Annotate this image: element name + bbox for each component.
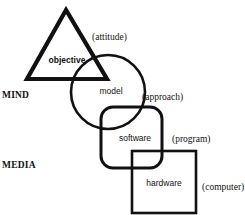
approach-annotation: (approach)	[142, 92, 183, 103]
model-label: model	[99, 86, 122, 96]
computer-annotation: (computer)	[202, 182, 244, 193]
software-label: software	[119, 133, 151, 143]
objective-triangle	[27, 10, 107, 79]
mind-label: MIND	[2, 90, 29, 100]
hardware-label: hardware	[146, 178, 182, 188]
objective-label: objective	[49, 55, 86, 65]
diagram-canvas: objective model software hardware (attit…	[0, 0, 245, 215]
program-annotation: (program)	[172, 134, 211, 145]
attitude-annotation: (attitude)	[92, 32, 127, 43]
media-label: MEDIA	[2, 160, 36, 170]
